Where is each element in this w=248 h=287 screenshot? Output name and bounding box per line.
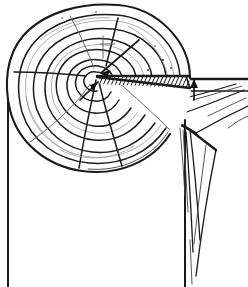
log-cross-section-illustration bbox=[0, 0, 248, 287]
speck bbox=[154, 45, 156, 47]
illustration-canvas bbox=[0, 0, 248, 287]
speck bbox=[61, 17, 63, 19]
speck bbox=[162, 59, 164, 61]
speck bbox=[95, 11, 97, 13]
speck bbox=[170, 67, 172, 69]
speck bbox=[147, 69, 149, 71]
